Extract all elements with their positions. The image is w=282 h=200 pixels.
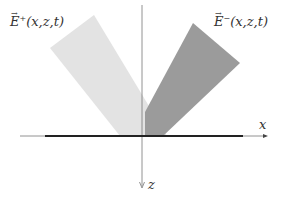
x-axis-label: x — [259, 118, 266, 131]
e-plus-label: →E+(x,z,t) — [10, 15, 64, 28]
e-minus-label: →E−(x,z,t) — [214, 15, 268, 28]
reflected-beam-e-minus — [145, 23, 240, 136]
z-axis-label: z — [148, 178, 155, 191]
wave-reflection-diagram — [0, 0, 282, 200]
x-axis-arrowhead — [263, 134, 268, 138]
vector-arrow-icon: → — [215, 10, 222, 18]
vector-arrow-icon: → — [11, 10, 18, 18]
